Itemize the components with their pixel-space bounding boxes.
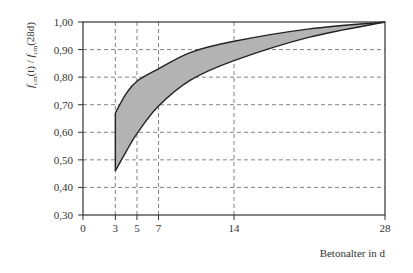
x-tick-label: 3 — [113, 222, 119, 234]
y-title-end: (28d) — [24, 22, 37, 46]
y-tick-label: 0,50 — [54, 154, 74, 166]
x-tick-label: 28 — [380, 222, 392, 234]
chart: 0,300,400,500,600,700,800,901,00 0357142… — [0, 0, 413, 273]
y-axis-title: fcm(t) / fcm(28d) — [24, 22, 39, 88]
svg-text:fcm(t) / fcm(28d): fcm(t) / fcm(28d) — [24, 22, 39, 88]
x-axis-ticks: 03571428 — [80, 215, 391, 234]
strength-band-area — [115, 22, 385, 171]
y-tick-label: 0,80 — [54, 71, 74, 83]
y-tick-label: 1,00 — [54, 16, 74, 28]
y-title-mid: (t) / — [24, 57, 37, 76]
y-tick-label: 0,60 — [54, 126, 74, 138]
x-axis-title: Betonalter in d — [320, 247, 386, 259]
x-tick-label: 0 — [80, 222, 86, 234]
x-tick-label: 7 — [156, 222, 162, 234]
y-axis-ticks: 0,300,400,500,600,700,800,901,00 — [54, 16, 83, 221]
x-tick-label: 5 — [134, 222, 140, 234]
y-tick-label: 0,90 — [54, 44, 74, 56]
y-tick-label: 0,40 — [54, 181, 74, 193]
y-tick-label: 0,70 — [54, 99, 74, 111]
y-tick-label: 0,30 — [54, 209, 74, 221]
x-tick-label: 14 — [229, 222, 241, 234]
